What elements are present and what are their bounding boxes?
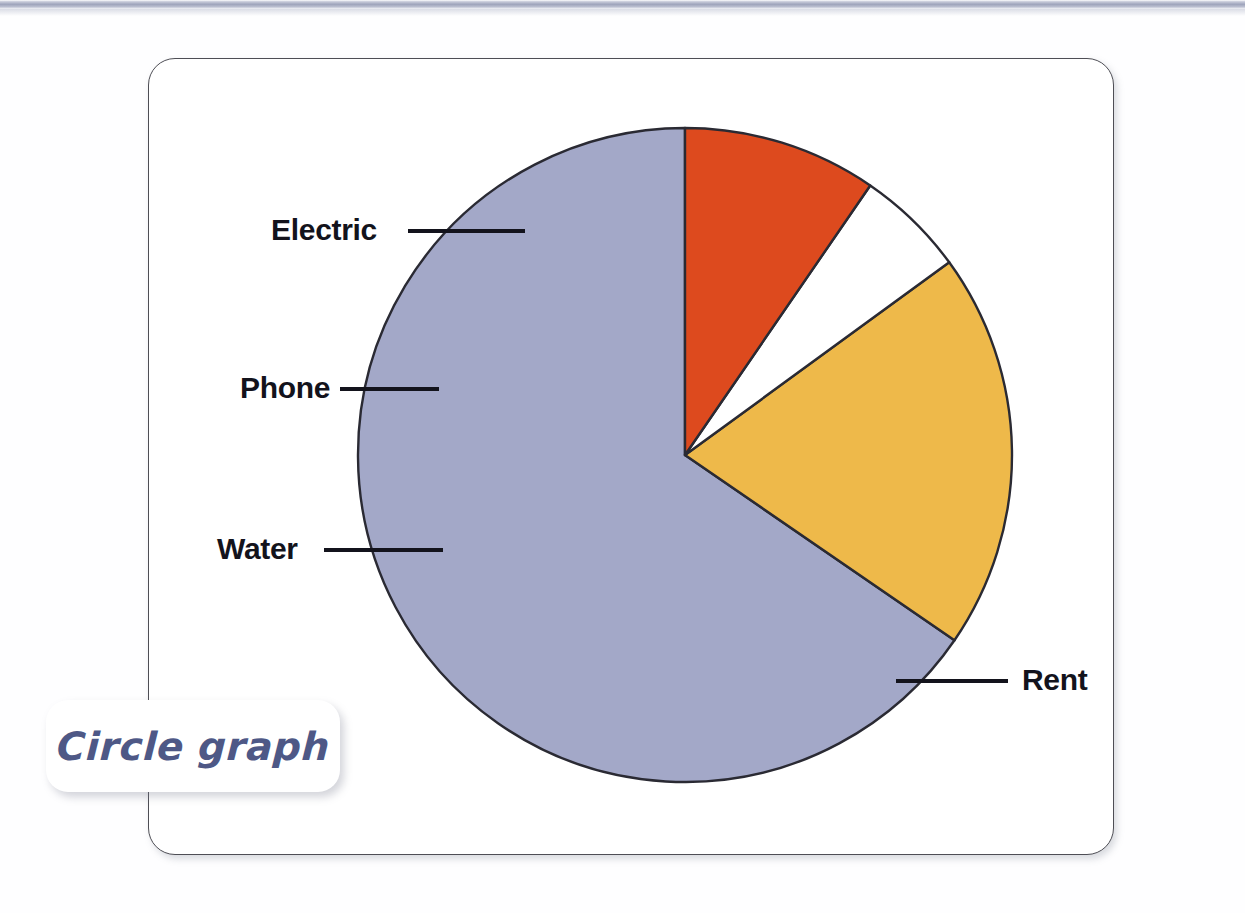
pie-label-rent: Rent [1022,663,1087,697]
circle-graph-callout-label: Circle graph [55,724,330,769]
pie-label-electric: Electric [271,213,377,247]
pie-label-water: Water [217,532,298,566]
circle-graph-callout: Circle graph [46,700,340,792]
scan-edge-bar [0,0,1245,9]
page-background: Electric Phone Water Rent Circle graph [0,0,1245,913]
scan-edge-shadow [0,9,1245,16]
pie-label-phone: Phone [240,371,330,405]
